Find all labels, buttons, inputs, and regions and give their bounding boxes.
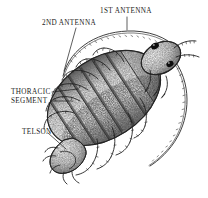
leader-second-antenna bbox=[64, 28, 76, 71]
isopod-anatomy-figure: 1ST ANTENNA 2ND ANTENNA THORACIC SEGMENT… bbox=[0, 0, 208, 198]
label-thoracic: THORACIC bbox=[11, 88, 51, 97]
telson-region bbox=[43, 138, 86, 184]
label-second-antenna: 2ND ANTENNA bbox=[42, 19, 96, 28]
label-segment: SEGMENT bbox=[11, 97, 47, 106]
label-telson: TELSON bbox=[22, 128, 52, 137]
label-first-antenna: 1ST ANTENNA bbox=[100, 7, 152, 16]
